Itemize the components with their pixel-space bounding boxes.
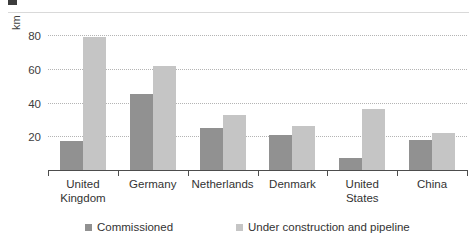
y-axis-tick-label: 60	[28, 64, 41, 76]
legend-label: Commissioned	[97, 221, 173, 233]
x-axis-category-label: United Kingdom	[48, 178, 118, 205]
x-axis-category-label: China	[397, 178, 467, 192]
x-axis-tick	[258, 170, 259, 176]
x-axis-category-label: Germany	[118, 178, 188, 192]
x-axis-category-label: United States	[327, 178, 397, 205]
bar-pipeline	[153, 66, 176, 170]
top-divider-rule	[8, 12, 469, 13]
bar-group	[269, 22, 315, 170]
x-axis-tick	[397, 170, 398, 176]
y-axis-title: km	[10, 15, 22, 30]
bar-commissioned	[200, 128, 223, 170]
gridline: 80	[48, 35, 467, 36]
bar-commissioned	[130, 94, 153, 170]
legend-item: Under construction and pipeline	[236, 221, 410, 233]
x-axis-tick	[118, 170, 119, 176]
y-axis-tick-label: 80	[28, 30, 41, 42]
legend-label: Under construction and pipeline	[248, 221, 410, 233]
legend-color-swatch	[85, 224, 92, 231]
bar-pipeline	[292, 126, 315, 170]
gridline: 20	[48, 136, 467, 137]
bar-group	[409, 22, 455, 170]
x-axis-category-label: Denmark	[258, 178, 328, 192]
x-axis-tick	[188, 170, 189, 176]
bar-commissioned	[339, 158, 362, 170]
bar-group	[130, 22, 176, 170]
x-axis-tick	[467, 170, 468, 176]
chart-figure: km 20406080 CommissionedUnder constructi…	[0, 0, 475, 244]
plot-area: 20406080	[48, 22, 467, 170]
y-axis-tick-label: 20	[28, 131, 41, 143]
gridline: 60	[48, 69, 467, 70]
legend-item: Commissioned	[85, 221, 173, 233]
x-axis-tick	[48, 170, 49, 176]
bar-group	[339, 22, 385, 170]
bar-commissioned	[409, 140, 432, 170]
bar-pipeline	[83, 37, 106, 170]
bar-group	[60, 22, 106, 170]
bar-pipeline	[432, 133, 455, 170]
bar-pipeline	[362, 109, 385, 170]
bar-commissioned	[60, 141, 83, 170]
gridline: 40	[48, 103, 467, 104]
bar-pipeline	[223, 115, 246, 171]
x-axis-category-label: Netherlands	[188, 178, 258, 192]
bar-commissioned	[269, 135, 292, 170]
bar-group	[200, 22, 246, 170]
caption-remnant-mark	[8, 0, 17, 5]
x-axis-tick	[327, 170, 328, 176]
legend-color-swatch	[236, 224, 243, 231]
y-axis-tick-label: 40	[28, 98, 41, 110]
chart-legend: CommissionedUnder construction and pipel…	[0, 221, 475, 237]
